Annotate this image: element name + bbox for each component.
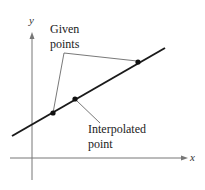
given-point-1 (50, 110, 55, 115)
x-axis-label: x (190, 151, 195, 163)
y-axis-arrow-icon (30, 32, 35, 39)
given-points-leader (53, 53, 137, 113)
given-points-label-line1: Given (50, 22, 79, 36)
interpolated-point-leader (77, 101, 100, 123)
given-points-label-line2: points (50, 37, 79, 51)
x-axis-arrow-icon (181, 156, 188, 161)
interpolated-point (72, 96, 77, 101)
given-point-2 (135, 59, 140, 64)
interpolated-point-label-line1: Interpolated (88, 122, 146, 136)
interpolation-diagram (0, 0, 205, 190)
y-axis-label: y (29, 14, 34, 26)
interpolated-point-label-line2: point (88, 137, 113, 151)
